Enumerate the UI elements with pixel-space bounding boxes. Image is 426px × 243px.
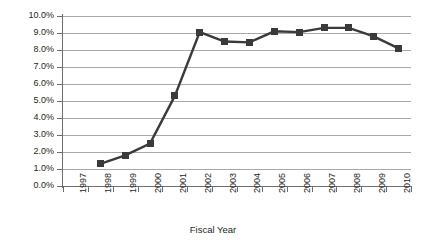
y-axis-tick-label: 6.0% bbox=[2, 79, 54, 88]
gridline bbox=[63, 50, 411, 51]
gridline bbox=[63, 16, 411, 17]
gridline bbox=[63, 84, 411, 85]
data-point-marker bbox=[147, 140, 154, 147]
x-axis-tick-label: 1998 bbox=[104, 173, 113, 193]
gridline bbox=[63, 118, 411, 119]
x-axis-tick-label: 2000 bbox=[154, 173, 163, 193]
y-axis-tick bbox=[57, 135, 62, 136]
data-point-marker bbox=[196, 29, 203, 36]
y-axis-tick-label: 9.0% bbox=[2, 28, 54, 37]
x-axis-tick-label: 2006 bbox=[303, 173, 312, 193]
y-axis-tick bbox=[57, 186, 62, 187]
y-axis-tick bbox=[57, 152, 62, 153]
data-point-marker bbox=[345, 24, 352, 31]
y-axis-line bbox=[62, 14, 63, 188]
x-axis-tick-label: 2002 bbox=[204, 173, 213, 193]
data-point-marker bbox=[171, 92, 178, 99]
plot-area bbox=[63, 16, 411, 186]
data-point-marker bbox=[370, 33, 377, 40]
data-point-marker bbox=[246, 39, 253, 46]
gridline bbox=[63, 67, 411, 68]
x-axis-tick-label: 2005 bbox=[278, 173, 287, 193]
y-axis-tick bbox=[57, 169, 62, 170]
line-chart: 0.0%1.0%2.0%3.0%4.0%5.0%6.0%7.0%8.0%9.0%… bbox=[0, 0, 426, 243]
y-axis-tick bbox=[57, 84, 62, 85]
data-point-marker bbox=[221, 38, 228, 45]
x-axis-tick-label: 2009 bbox=[378, 173, 387, 193]
x-axis-tick-label: 2007 bbox=[328, 173, 337, 193]
y-axis-tick-label: 7.0% bbox=[2, 62, 54, 71]
y-axis-tick-label: 10.0% bbox=[2, 11, 54, 20]
y-axis-tick bbox=[57, 50, 62, 51]
data-point-marker bbox=[122, 152, 129, 159]
gridline bbox=[63, 33, 411, 34]
y-axis-tick bbox=[57, 16, 62, 17]
y-axis-tick-label: 1.0% bbox=[2, 164, 54, 173]
y-axis-tick-label: 2.0% bbox=[2, 147, 54, 156]
y-axis-tick-label: 8.0% bbox=[2, 45, 54, 54]
y-axis-tick bbox=[57, 67, 62, 68]
y-axis-tick-label: 0.0% bbox=[2, 181, 54, 190]
y-axis-tick bbox=[57, 101, 62, 102]
x-axis-tick-label: 1997 bbox=[79, 173, 88, 193]
x-axis-tick-label: 1999 bbox=[129, 173, 138, 193]
x-axis-title: Fiscal Year bbox=[0, 224, 426, 235]
y-axis-tick-label: 4.0% bbox=[2, 113, 54, 122]
x-axis-tick-label: 2003 bbox=[229, 173, 238, 193]
data-point-marker bbox=[97, 160, 104, 167]
gridline bbox=[63, 169, 411, 170]
gridline bbox=[63, 135, 411, 136]
data-point-marker bbox=[296, 29, 303, 36]
x-axis-tick-label: 2010 bbox=[403, 173, 412, 193]
x-axis-tick-label: 2008 bbox=[353, 173, 362, 193]
data-point-marker bbox=[395, 45, 402, 52]
x-axis-tick bbox=[63, 187, 64, 192]
y-axis-tick bbox=[57, 33, 62, 34]
y-axis-tick bbox=[57, 118, 62, 119]
gridline bbox=[63, 101, 411, 102]
x-axis-tick-label: 2004 bbox=[253, 173, 262, 193]
data-point-marker bbox=[271, 28, 278, 35]
y-axis-tick-label: 3.0% bbox=[2, 130, 54, 139]
y-axis-tick-label: 5.0% bbox=[2, 96, 54, 105]
x-axis-tick-label: 2001 bbox=[179, 173, 188, 193]
gridline bbox=[63, 152, 411, 153]
data-point-marker bbox=[321, 24, 328, 31]
